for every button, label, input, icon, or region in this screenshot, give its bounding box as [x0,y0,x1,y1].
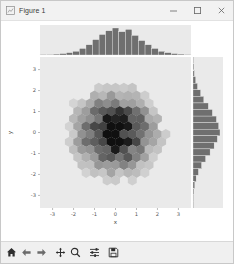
right-histogram-bar [193,103,208,110]
figure-window: Figure 1 -3-2 [0,0,234,264]
y-tick-label: 0 [33,129,36,135]
window-controls [161,1,233,20]
y-tick-label: -3 [31,192,36,198]
x-tick-label: -3 [50,211,55,217]
top-histogram-bar [178,54,185,55]
right-histogram-bar [193,142,214,149]
x-tick-label: 0 [114,211,117,217]
top-histogram-bar [86,45,93,55]
right-histogram-bar [193,116,216,123]
x-tick-label: -2 [71,211,76,217]
y-tick-label: -2 [31,171,36,177]
right-histogram-bar [193,149,210,156]
right-histogram-bar [193,90,201,97]
home-button[interactable] [4,245,18,260]
right-histogram-bar [193,155,206,162]
x-tick-label: -1 [92,211,97,217]
right-histogram-bar [193,182,195,189]
window-title: Figure 1 [19,1,45,20]
y-axis-label: y [7,130,14,134]
top-histogram-bar [119,32,126,55]
maximize-button[interactable] [185,1,209,20]
y-tick-label: 2 [33,87,36,93]
right-histogram-bar [193,162,202,169]
top-histogram-bar [53,54,60,55]
right-histogram-bar [193,110,212,117]
top-histogram-bar [125,29,132,55]
top-histogram-bar [152,48,159,55]
right-histogram-bar [193,136,217,143]
title-bar: Figure 1 [1,1,233,21]
right-histogram-bar [193,64,194,71]
right-histogram-bar [193,188,194,195]
top-histogram-bar [60,54,67,55]
configure-subplots-button[interactable] [87,245,101,260]
zoom-button[interactable] [68,245,82,260]
close-button[interactable] [209,1,233,20]
top-histogram-bar [138,41,145,55]
top-marginal-histogram [40,28,191,55]
x-tick-label: 1 [135,211,138,217]
right-histogram-bar [193,175,196,182]
x-tick-label: 3 [177,211,180,217]
right-histogram-bar [193,96,204,103]
right-histogram-bar [193,129,220,136]
right-histogram-bar [193,70,194,77]
top-histogram-bar [171,54,178,55]
top-histogram-bar [112,28,119,55]
y-tick-label: -1 [31,150,36,156]
right-marginal-histogram [193,57,220,208]
navigation-toolbar [1,241,233,263]
x-tick-label: 2 [156,211,159,217]
forward-button[interactable] [34,245,48,260]
top-histogram-bar [73,51,80,55]
top-histogram-bar [66,53,73,55]
top-histogram-bar [145,45,152,55]
pan-button[interactable] [53,245,67,260]
right-histogram-bar [193,83,198,90]
right-histogram-bar [193,123,219,130]
top-histogram-bar [99,35,106,55]
plot-graphics: -3-2-10123-3-2-10123xy [1,21,233,241]
back-button[interactable] [19,245,33,260]
right-histogram-bar [193,169,198,176]
hexbin-collection [65,83,170,186]
top-histogram-bar [132,35,139,55]
figure-icon [6,6,15,15]
top-histogram-bar [93,40,100,55]
top-histogram-bar [165,53,172,55]
right-histogram-bar [193,77,196,84]
top-histogram-bar [106,31,113,55]
top-histogram-bar [79,48,86,55]
top-histogram-bar [158,51,165,55]
save-button[interactable] [106,245,120,260]
y-tick-label: 3 [33,66,36,72]
minimize-button[interactable] [161,1,185,20]
figure-canvas[interactable]: -3-2-10123-3-2-10123xy [1,21,233,241]
x-axis-label: x [114,219,118,225]
y-tick-label: 1 [33,108,36,114]
